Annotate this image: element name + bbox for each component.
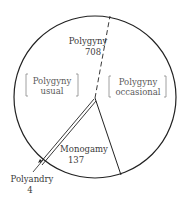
monogamy-value: 137	[68, 155, 84, 165]
occasional-line2: occasional	[115, 87, 160, 97]
polygyny-usual-annotation: Polygyny usual	[26, 74, 78, 96]
right-bracket-icon	[76, 74, 78, 96]
monogamy-label: Monogamy	[60, 144, 108, 154]
polyandry-value: 4	[27, 185, 32, 195]
polygyny-occasional-annotation: Polygyny occasional	[109, 76, 166, 97]
polygyny-label: Polygyny	[69, 36, 108, 46]
pie-chart: Polygyny 708 Polygyny usual Polygyny occ…	[0, 0, 185, 202]
usual-line1: Polygyny	[33, 76, 72, 86]
right-bracket-icon	[164, 76, 166, 97]
occasional-line1: Polygyny	[119, 77, 158, 87]
dashed-divider-line	[95, 16, 110, 98]
polyandry-label: Polyandry	[11, 174, 54, 184]
polygyny-value: 708	[85, 47, 101, 57]
polyandry-arrow-line	[33, 160, 43, 172]
left-bracket-icon	[109, 76, 111, 97]
usual-line2: usual	[40, 86, 63, 96]
left-bracket-icon	[26, 74, 28, 96]
monogamy-divider-line	[95, 98, 121, 175]
